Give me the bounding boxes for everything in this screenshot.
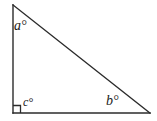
triangle-hypotenuse bbox=[13, 5, 150, 113]
angle-label-a: a° bbox=[14, 19, 27, 33]
right-angle-marker-icon bbox=[13, 106, 21, 114]
angle-label-c: c° bbox=[23, 96, 33, 108]
angle-label-b: b° bbox=[106, 94, 119, 108]
right-triangle-figure: a° c° b° bbox=[0, 0, 157, 121]
